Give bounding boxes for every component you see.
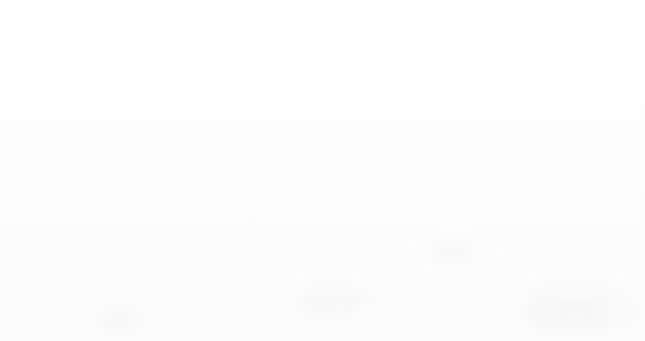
x-tick-label-2010: 2010	[152, 290, 186, 307]
y-tick-label: 8	[10, 48, 44, 63]
chart-container: 8 6 4 2 0 -2 -4 RILE	[0, 0, 645, 341]
bar-2010	[131, 196, 215, 292]
y-axis-title: RILE	[9, 130, 25, 190]
y-tick-label: -4	[10, 292, 44, 307]
y-tick-label: 6	[10, 89, 44, 104]
x-tick-label-2012: 2012	[330, 240, 364, 257]
y-tick-label: -2	[10, 251, 44, 266]
bar-2012-side-face	[401, 59, 422, 214]
x-axis-title: Years	[295, 305, 337, 322]
y-tick-label: 0	[10, 211, 44, 226]
bar-2010-front-face	[131, 207, 215, 289]
bar-2016-side-face	[576, 185, 597, 225]
bar-2012-front-face	[317, 70, 401, 211]
bar-2016	[492, 185, 576, 225]
bar-2010-side-face	[215, 196, 236, 291]
bar-2012	[317, 59, 401, 214]
bar-2016-front-face	[492, 196, 576, 211]
x-tick-label-2016: 2016	[504, 240, 538, 257]
